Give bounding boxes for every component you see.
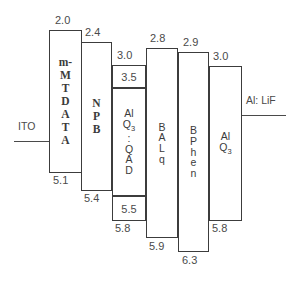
layer-char: A [61,108,69,121]
layer-char-subscript: Q3 [123,119,135,133]
level-label-lumo-balq: 2.8 [150,32,165,44]
level-label-homo-alq3-qad: 5.8 [115,222,130,234]
layer-label-npb: N P B [82,43,111,190]
layer-box-npb: N P B [81,42,112,191]
level-label-lumo-alq3: 3.0 [213,50,228,62]
layer-char: D [61,95,69,108]
level-label-dopant-homo-alq3-qad: 5.5 [121,203,136,215]
layer-char: M [60,69,71,82]
layer-label-balq: B A L q [147,49,177,237]
layer-char: : [128,133,131,144]
layer-box-m-mtdata: m- M T D A T A [49,30,82,173]
layer-box-alq3-qad: Al Q3 : Q A D [112,88,146,196]
layer-label-alq3: Al Q3 [210,67,241,220]
level-label-dopant-lumo-alq3-qad: 3.5 [121,71,136,83]
level-label-lumo-alq3-qad: 3.0 [117,49,132,61]
layer-char-subscript: Q3 [219,142,231,156]
layer-char: P [93,110,100,123]
layer-char: T [62,121,70,134]
layer-box-balq: B A L q [146,48,178,238]
layer-box-alq3: Al Q3 [209,66,242,221]
cathode-electrode-line-al-lif [239,115,286,116]
layer-char: A [61,134,69,147]
layer-char: T [62,82,70,95]
layer-label-alq3-qad: Al Q3 : Q A D [113,89,145,195]
anode-label-ito: ITO [18,120,35,132]
layer-char: n [191,168,197,179]
layer-char: q [159,154,165,165]
sub-cell-dopant-lumo-alq3-qad: 3.5 [112,65,146,88]
level-label-homo-bphen: 6.3 [182,254,197,266]
level-label-homo-balq: 5.9 [149,240,164,252]
layer-char: B [93,123,101,136]
layer-char: N [92,97,100,110]
layer-char: D [125,165,133,176]
layer-char: m- [59,56,72,69]
level-label-homo-alq3: 5.8 [212,222,227,234]
sub-cell-dopant-homo-alq3-qad: 5.5 [112,196,146,221]
layer-box-bphen: B P h e n [178,52,209,252]
level-label-homo-m-mtdata: 5.1 [53,174,68,186]
level-label-lumo-npb: 2.4 [85,26,100,38]
layer-label-m-mtdata: m- M T D A T A [50,31,81,172]
level-label-lumo-m-mtdata: 2.0 [55,14,70,26]
level-label-lumo-bphen: 2.9 [183,36,198,48]
level-label-homo-npb: 5.4 [84,192,99,204]
cathode-label-al-lif: Al: LiF [246,94,276,106]
layer-label-bphen: B P h e n [179,53,208,251]
energy-level-diagram: ITO 2.0 m- M T D A T A 5.1 2.4 N P B 5.4… [0,0,292,283]
